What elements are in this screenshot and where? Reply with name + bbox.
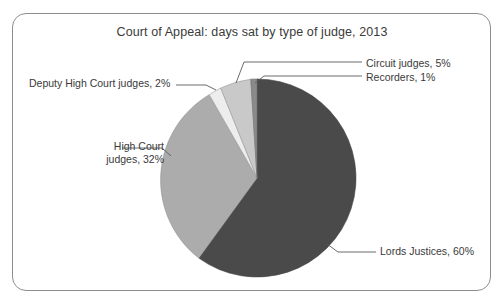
slice-label-lords-justices: Lords Justices, 60% (380, 245, 474, 258)
slice-label-recorders: Recorders, 1% (366, 71, 435, 84)
slice-label-high-court-judges: High Courtjudges, 32% (56, 140, 164, 166)
pie-slices (161, 79, 356, 277)
slice-label-deputy-high-court-judges: Deputy High Court judges, 2% (29, 77, 170, 90)
slice-label-high-court-judges-line1: High Court (114, 140, 164, 152)
slice-label-high-court-judges-line2: judges, 32% (106, 153, 164, 165)
slice-label-circuit-judges: Circuit judges, 5% (366, 57, 451, 70)
pie-chart-figure: Court of Appeal: days sat by type of jud… (0, 0, 504, 305)
leader-line-lords-justices (327, 244, 376, 252)
leader-line-deputy-high-court-judges (176, 85, 216, 90)
